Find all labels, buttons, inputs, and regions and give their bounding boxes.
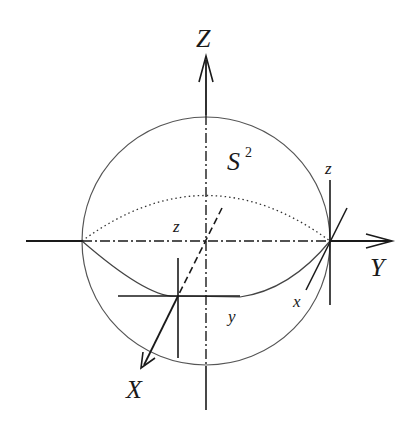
label-Z: Z [196, 24, 211, 53]
local-x-right [306, 208, 347, 290]
label-local-y-front: y [226, 307, 236, 326]
label-local-z-right: z [324, 159, 332, 178]
label-sphere-superscript: 2 [245, 145, 252, 160]
label-local-z-front: z [172, 217, 180, 236]
label-local-x-right: x [292, 292, 301, 311]
label-Y: Y [370, 253, 387, 282]
sphere-diagram: Z Y X S 2 z y z x [0, 0, 416, 428]
x-axis-arrowhead [141, 352, 155, 368]
x-axis-outer [144, 296, 178, 365]
label-sphere-S: S [227, 147, 240, 176]
label-X: X [125, 375, 143, 404]
x-axis-inner [178, 208, 222, 296]
